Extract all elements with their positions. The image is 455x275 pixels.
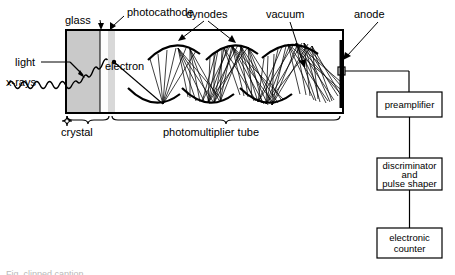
label-xrays: x-rays [6, 76, 36, 88]
glass-arrow-head [98, 23, 104, 30]
box-counter-label-line1: electronic [389, 232, 430, 243]
label-dynodes: dynodes [186, 8, 228, 20]
pmt-brace [112, 116, 340, 124]
clipped-caption: Fig. clipped caption [6, 268, 156, 275]
electronics-chain: preamplifier discriminator and pulse sha… [377, 92, 442, 258]
label-electron: electron [105, 60, 144, 72]
box-preamplifier-label: preamplifier [385, 99, 435, 110]
label-photocathode: photocathode [127, 6, 194, 18]
label-crystal: crystal [61, 126, 93, 138]
box-counter-label-line2: counter [394, 243, 426, 254]
label-photomultiplier-tube: photomultiplier tube [163, 126, 259, 138]
crystal-brace [67, 116, 109, 124]
label-vacuum: vacuum [266, 8, 305, 20]
box-discriminator-label-line3: pulse shaper [382, 178, 436, 189]
brace-group [62, 116, 340, 126]
label-glass: glass [65, 14, 91, 26]
crystal-block [67, 31, 100, 112]
figure-canvas: glass photocathode dynodes vacuum anode … [0, 0, 455, 275]
photocathode-arrow-head [110, 22, 116, 30]
label-anode: anode [354, 8, 385, 20]
scintillation-detector-diagram: glass photocathode dynodes vacuum anode … [0, 0, 455, 275]
label-light: light [15, 56, 35, 68]
